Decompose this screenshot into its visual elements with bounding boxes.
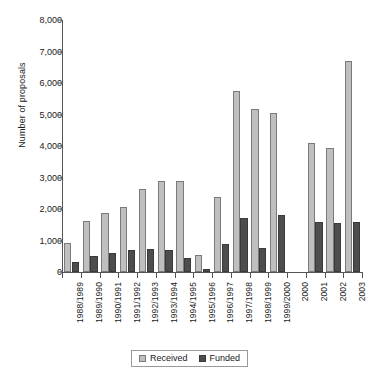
bar-funded <box>109 253 116 272</box>
bar-funded <box>203 269 210 272</box>
bar-received <box>83 221 90 272</box>
plot-area <box>62 20 362 272</box>
chart-legend: ReceivedFunded <box>131 350 248 367</box>
bar-received <box>176 181 183 272</box>
legend-label: Received <box>150 353 188 363</box>
bar-group <box>268 20 287 272</box>
bar-group <box>118 20 137 272</box>
x-axis-tick-label: 2003 <box>357 282 367 301</box>
bar-funded <box>147 249 154 272</box>
x-axis-tick-mark <box>118 273 119 278</box>
bar-group <box>175 20 194 272</box>
y-axis-tick-mark <box>58 177 62 178</box>
legend-swatch-funded-icon <box>199 355 206 362</box>
bar-received <box>195 255 202 272</box>
bar-received <box>139 189 146 272</box>
bar-group <box>100 20 119 272</box>
x-axis-tick-label: 1997/1998 <box>244 282 254 323</box>
legend-label: Funded <box>210 353 241 363</box>
y-axis-tick-mark <box>58 240 62 241</box>
x-axis-tick-label: 1996/1997 <box>225 282 235 323</box>
x-axis-tick-label: 1988/1989 <box>75 282 85 323</box>
bar-funded <box>259 248 266 272</box>
x-axis-tick-label: 1992/1993 <box>150 282 160 323</box>
x-axis-tick-label: 1994/1995 <box>188 282 198 323</box>
x-axis-tick-mark <box>156 273 157 278</box>
x-axis-tick-mark <box>137 273 138 278</box>
bar-received <box>158 181 165 272</box>
bar-group <box>156 20 175 272</box>
x-axis-tick-label: 2002 <box>338 282 348 301</box>
x-axis-tick-mark <box>306 273 307 278</box>
bar-funded <box>72 262 79 272</box>
x-axis-tick-mark <box>250 273 251 278</box>
bar-received <box>251 109 258 272</box>
bar-received <box>101 213 108 272</box>
x-axis-tick-label: 1990/1991 <box>113 282 123 323</box>
x-axis-tick-mark <box>212 273 213 278</box>
x-axis-tick-label: 1995/1996 <box>207 282 217 323</box>
bar-chart-figure: Number of proposals 01,0002,0003,0004,00… <box>0 0 384 375</box>
bar-funded <box>128 250 135 272</box>
bar-group <box>250 20 269 272</box>
bar-funded <box>334 223 341 272</box>
x-axis-tick-mark <box>362 273 363 278</box>
bar-funded <box>165 250 172 272</box>
bar-funded <box>90 256 97 272</box>
x-axis-tick-mark <box>100 273 101 278</box>
bar-group <box>306 20 325 272</box>
x-axis-tick-mark <box>231 273 232 278</box>
legend-item-funded: Funded <box>199 353 241 363</box>
x-axis-tick-mark <box>343 273 344 278</box>
x-axis-tick-mark <box>175 273 176 278</box>
y-axis-tick-mark <box>58 51 62 52</box>
x-axis-tick-mark <box>62 273 63 278</box>
bar-received <box>120 207 127 272</box>
bar-group <box>325 20 344 272</box>
bar-received <box>308 143 315 272</box>
bar-group <box>81 20 100 272</box>
bar-group <box>212 20 231 272</box>
y-axis-tick-mark <box>58 146 62 147</box>
bar-received <box>326 148 333 272</box>
bar-group <box>287 20 306 272</box>
bar-group <box>343 20 362 272</box>
bar-received <box>233 91 240 272</box>
y-axis-tick-mark <box>58 209 62 210</box>
bar-funded <box>240 218 247 272</box>
x-axis-tick-label: 2000 <box>300 282 310 301</box>
bar-funded <box>184 258 191 272</box>
y-axis-tick-mark <box>58 20 62 21</box>
bar-funded <box>353 222 360 272</box>
x-axis-tick-label: 1998/1999 <box>263 282 273 323</box>
x-axis-tick-label: 1991/1992 <box>132 282 142 323</box>
x-axis-tick-label: 1999/2000 <box>282 282 292 323</box>
bar-funded <box>222 244 229 272</box>
x-axis-tick-mark <box>287 273 288 278</box>
bar-group <box>137 20 156 272</box>
bar-group <box>231 20 250 272</box>
bar-received <box>214 197 221 272</box>
bar-funded <box>315 222 322 272</box>
x-axis-tick-mark <box>268 273 269 278</box>
y-axis-tick-mark <box>58 114 62 115</box>
bar-funded <box>278 215 285 272</box>
x-axis-tick-mark <box>81 273 82 278</box>
x-axis-tick-label: 1989/1990 <box>94 282 104 323</box>
x-axis-tick-label: 2001 <box>319 282 329 301</box>
bar-received <box>345 61 352 272</box>
bar-received <box>270 113 277 272</box>
x-axis-tick-mark <box>193 273 194 278</box>
legend-item-received: Received <box>139 353 188 363</box>
x-axis-tick-mark <box>325 273 326 278</box>
y-axis-tick-mark <box>58 83 62 84</box>
legend-swatch-received-icon <box>139 355 146 362</box>
x-axis-tick-label: 1993/1994 <box>169 282 179 323</box>
bar-group <box>193 20 212 272</box>
